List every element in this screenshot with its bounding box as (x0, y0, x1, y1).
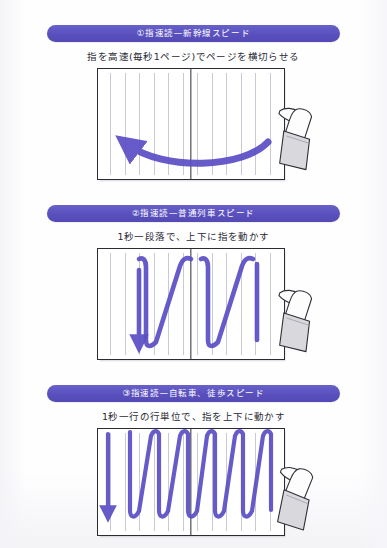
book-spread-diagram-2 (94, 248, 294, 360)
cropped-header-text (0, 0, 387, 7)
book-spread-diagram-1 (94, 68, 294, 180)
finger-path-overlay-1 (94, 68, 294, 180)
zigzag-stroke-2-a (139, 258, 191, 346)
section-finger-reading-shinkansen: ①指速読—新幹線スピード 指を高速(毎秒1ページ)でページを横切らせる (0, 25, 387, 180)
finger-path-overlay-3 (94, 428, 294, 536)
pointing-hand-icon-3 (270, 454, 330, 532)
finger-path-overlay-2 (94, 248, 294, 360)
zigzag-stroke-3-a (130, 431, 207, 516)
section-banner-2: ②指速読—普通列車スピード (47, 205, 340, 222)
sweep-path-1 (127, 142, 268, 163)
scanned-page: ①指速読—新幹線スピード 指を高速(毎秒1ページ)でページを横切らせる (0, 0, 387, 548)
pointing-hand-icon-1 (270, 94, 330, 172)
book-spread-diagram-3 (94, 428, 294, 536)
dotted-divider (18, 12, 369, 14)
section-finger-reading-bicycle-walking: ③指速読—自転車、徒歩スピード 1秒一行の行単位で、指を上下に動かす (0, 385, 387, 536)
section-caption-2: 1秒一段落で、上下に指を動かす (0, 229, 387, 243)
section-banner-3: ③指速読—自転車、徒歩スピード (47, 385, 340, 402)
section-banner-1: ①指速読—新幹線スピード (47, 25, 340, 42)
section-caption-3: 1秒一行の行単位で、指を上下に動かす (0, 409, 387, 423)
section-caption-1: 指を高速(毎秒1ページ)でページを横切らせる (0, 49, 387, 63)
section-finger-reading-local-train: ②指速読—普通列車スピード 1秒一段落で、上下に指を動かす (0, 205, 387, 360)
zigzag-stroke-3-b (207, 431, 271, 516)
pointing-hand-icon-2 (270, 276, 330, 354)
zigzag-stroke-2-b (201, 258, 253, 346)
